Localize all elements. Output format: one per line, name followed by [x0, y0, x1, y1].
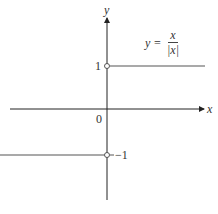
origin-label: 0 [96, 113, 102, 125]
graph-canvas [0, 0, 218, 214]
open-circle-lower [105, 153, 110, 158]
function-lhs: y = [145, 37, 161, 49]
fraction-numerator: x [168, 29, 177, 43]
y-axis-label: y [104, 4, 109, 16]
open-circle-upper [105, 64, 110, 69]
fraction-denominator: |x| [167, 43, 179, 56]
x-axis-label: x [207, 103, 212, 115]
tick-label-minus-1: −1 [115, 149, 128, 161]
function-fraction: x |x| [167, 29, 179, 56]
tick-label-1: 1 [95, 60, 101, 72]
